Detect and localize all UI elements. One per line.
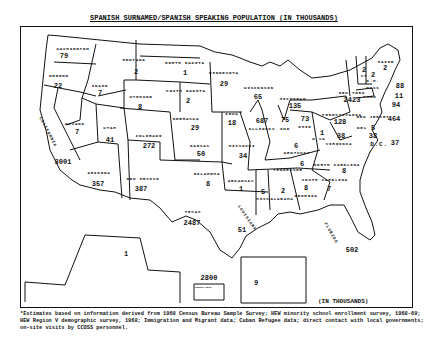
state-value-puerto-rico: 2800 (201, 274, 218, 282)
state-label-illinois: ILLINOIS (249, 127, 276, 131)
state-label-south-dakota: SOUTH DAKOTA (166, 89, 206, 93)
state-value-new-jersey: 464 (388, 115, 401, 123)
state-value-georgia: 8 (304, 184, 308, 192)
state-label-wisconsin: WISCONSIN (244, 86, 274, 90)
state-label-minnesota: MINNESOTA (209, 71, 239, 75)
state-value-iowa: 18 (228, 119, 236, 127)
state-value-tennessee: 6 (300, 160, 304, 168)
state-label-washington: WASHINGTON (56, 47, 89, 51)
state-value-colorado: 272 (143, 142, 156, 150)
state-value-utah: 41 (106, 136, 114, 144)
state-label-south-carolina: SOUTH CAROLINA (302, 178, 348, 182)
state-label-oregon: OREGON (49, 74, 69, 78)
state-value-connecticut: 94 (392, 101, 400, 109)
state-label-west-virginia: W VA (312, 137, 325, 141)
state-value-indiana: 75 (281, 116, 289, 124)
state-label-new-york: NEW YORK (339, 91, 366, 95)
footnote: *Estimates based on information derived … (20, 311, 430, 333)
state-value-minnesota: 29 (220, 80, 228, 88)
state-value-missouri: 34 (239, 152, 247, 160)
state-value-south-carolina: 7 (327, 185, 331, 193)
state-value-pennsylvania: 128 (334, 118, 347, 126)
state-label-new-hampshire: N.H. (366, 79, 379, 83)
state-label-vermont: VT (361, 74, 368, 78)
state-label-kentucky: KENTUCKY (284, 151, 311, 155)
state-value-maine: 2 (383, 64, 387, 72)
state-label-connecticut: CONN (363, 95, 376, 99)
state-value-maryland: 38 (369, 132, 377, 140)
state-label-dc: D.C. (370, 141, 388, 148)
state-label-arkansas: ARKANSAS (228, 179, 255, 183)
state-label-texas: TEXAS (185, 210, 202, 214)
state-value-north-dakota: 1 (183, 69, 187, 77)
state-label-arizona: ARIZONA (87, 171, 110, 175)
state-value-ohio: 73 (301, 115, 309, 123)
state-label-idaho: IDAHO (92, 84, 109, 88)
state-value-arkansas: 1 (239, 185, 243, 193)
state-label-oklahoma: OKLAHOMA (194, 172, 221, 176)
state-label-new-mexico: NEW MEXICO (126, 177, 159, 181)
state-label-north-dakota: NORTH DAKOTA (165, 61, 205, 65)
state-value-alabama: 2 (281, 187, 285, 195)
state-label-georgia: GEORGIA (294, 194, 317, 198)
state-label-michigan: MICHIGAN (280, 97, 307, 101)
state-label-kansas: KANSAS (190, 144, 210, 148)
state-label-massachusetts: MASS (366, 86, 379, 90)
state-value-south-dakota: 2 (186, 97, 190, 105)
units-label: (IN THOUSANDS) (318, 298, 368, 305)
state-label-tennessee: TENNESSEE (273, 168, 303, 172)
state-value-alaska: 1 (124, 250, 128, 258)
state-label-ohio: OHIO (298, 125, 311, 129)
state-value-florida: 502 (346, 246, 359, 254)
state-label-puerto-rico: PUERTO RICO (195, 286, 212, 289)
state-value-new-york: 2423 (344, 96, 361, 104)
state-label-wyoming: WYOMING (129, 95, 152, 99)
state-value-illinois: 687 (256, 117, 269, 125)
state-label-montana: MONTANA (122, 58, 145, 62)
state-label-indiana: IND (280, 127, 290, 131)
state-value-kentucky: 6 (294, 142, 298, 150)
state-value-idaho: 7 (98, 89, 102, 97)
state-value-west-virginia: 1 (320, 129, 324, 137)
state-value-louisiana: 51 (238, 226, 246, 234)
state-value-california: 3001 (55, 158, 72, 166)
state-value-vermont: 2 (362, 66, 366, 74)
state-label-nevada: NEVADA (65, 122, 85, 126)
state-value-montana: 2 (134, 68, 138, 76)
state-value-arizona: 357 (92, 180, 105, 188)
state-value-nebraska: 29 (191, 124, 199, 132)
state-label-colorado: COLORADO (136, 134, 163, 138)
state-label-mississippi: MISS (256, 197, 269, 201)
state-value-virginia: 38 (337, 132, 345, 140)
state-value-north-carolina: 8 (342, 167, 346, 175)
state-label-north-carolina: NORTH CAROLINA (314, 163, 360, 167)
state-value-wyoming: 8 (138, 103, 142, 111)
state-value-oregon: 22 (54, 82, 62, 90)
state-value-michigan: 135 (289, 102, 302, 110)
state-value-new-mexico: 387 (135, 185, 148, 193)
state-value-nevada: 7 (75, 128, 79, 136)
state-value-texas: 2487 (184, 219, 201, 227)
state-value-massachusetts: 88 (396, 82, 404, 90)
state-value-dc: 37 (391, 139, 399, 147)
state-value-washington: 79 (60, 52, 68, 60)
state-value-hawaii: 9 (254, 279, 258, 287)
state-label-utah: UTAH (103, 126, 116, 130)
state-value-mississippi: 5 (261, 188, 265, 196)
state-value-wisconsin: 65 (254, 93, 262, 101)
state-label-missouri: MISSOURI (229, 144, 256, 148)
state-label-nebraska: NEBRASKA (173, 117, 200, 121)
state-value-new-hampshire: 2 (371, 71, 375, 79)
state-value-rhode-island: 11 (395, 92, 403, 100)
state-value-kansas: 50 (197, 150, 205, 158)
state-label-virginia: VIRGINIA (326, 142, 353, 146)
state-label-iowa: IOWA (225, 112, 238, 116)
state-label-new-jersey: NEW JERSEY (356, 115, 389, 119)
state-value-delaware: 5 (371, 124, 375, 132)
state-label-delaware: DEL (357, 126, 367, 130)
state-value-oklahoma: 8 (206, 180, 210, 188)
state-label-alabama: ALABAMA (270, 197, 293, 201)
